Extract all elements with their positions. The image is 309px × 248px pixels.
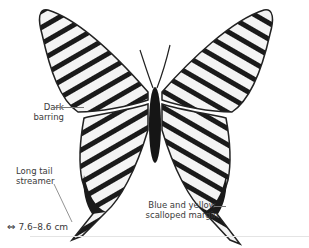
wingspan-arrows-icon: ⇔ — [7, 221, 15, 232]
wingspan-value: 7.6–8.6 cm — [18, 222, 68, 232]
label-line: scalloped margin — [144, 210, 220, 220]
label-margin: Blue and yellow scalloped margin — [144, 200, 220, 220]
label-line: Blue and yellow — [144, 200, 220, 210]
butterfly-figure: Dark barring Long tail streamer Blue and… — [0, 0, 309, 248]
leader-line — [214, 206, 226, 207]
divider — [30, 236, 309, 237]
wingspan-size: ⇔ 7.6–8.6 cm — [7, 221, 68, 232]
